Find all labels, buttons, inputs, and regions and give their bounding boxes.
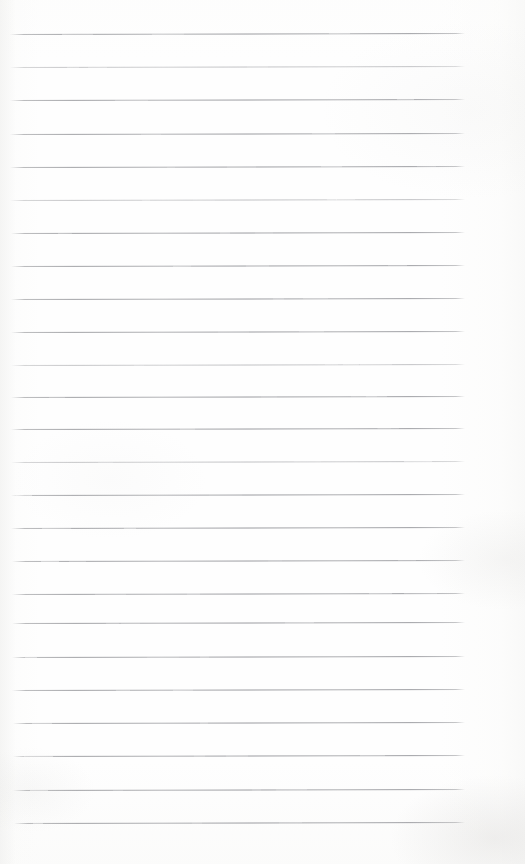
scan-dropout <box>141 134 161 135</box>
ruled-line <box>12 593 465 595</box>
scan-dropout <box>294 461 321 462</box>
ruled-line <box>10 99 465 101</box>
scan-dropout <box>220 233 230 234</box>
scan-dropout <box>209 494 242 495</box>
scan-dropout <box>67 67 79 68</box>
scan-dropout <box>366 396 387 397</box>
ruled-line <box>11 396 465 398</box>
scan-dropout <box>200 657 209 658</box>
scan-dropout <box>299 331 324 332</box>
scan-dropout <box>106 623 119 624</box>
scan-dropout <box>200 723 208 724</box>
scan-dropout <box>30 790 48 791</box>
ruled-line <box>10 66 465 68</box>
ruled-line <box>12 560 465 562</box>
scan-dropout <box>327 199 337 200</box>
scan-dropout <box>329 33 350 34</box>
scan-dropout <box>336 199 355 200</box>
scan-dropout <box>303 298 328 299</box>
scanned-page <box>0 0 525 864</box>
scan-dropout <box>58 233 72 234</box>
scan-dropout <box>152 34 184 35</box>
ruled-line <box>11 428 465 430</box>
ruled-lines-layer <box>0 0 525 864</box>
scan-dropout <box>187 594 200 595</box>
scan-dropout <box>325 364 338 365</box>
ruled-line <box>11 527 465 529</box>
scan-dropout <box>360 755 385 756</box>
scan-dropout <box>343 364 359 365</box>
ruled-line <box>11 331 465 333</box>
scan-dropout <box>285 622 314 623</box>
scan-dropout <box>115 100 148 101</box>
scan-dropout <box>321 166 342 167</box>
scan-dropout <box>247 66 268 67</box>
scan-dropout <box>32 723 52 724</box>
scan-dropout <box>49 397 65 398</box>
scan-dropout <box>226 755 248 756</box>
ruled-line <box>11 265 465 267</box>
scan-dropout <box>279 822 302 823</box>
scan-dropout <box>268 560 282 561</box>
ruled-line <box>11 364 465 366</box>
scan-dropout <box>192 823 202 824</box>
scan-dropout <box>16 495 32 496</box>
ruled-line <box>10 166 465 168</box>
scan-dropout <box>147 657 179 658</box>
scan-dropout <box>142 200 150 201</box>
scan-dropout <box>369 593 392 594</box>
ruled-line <box>13 755 465 757</box>
scan-dropout <box>388 265 407 266</box>
scan-dropout <box>42 528 71 529</box>
scan-dropout <box>377 428 391 429</box>
scan-dropout <box>404 593 437 594</box>
scan-dropout <box>33 823 43 824</box>
scan-dropout <box>25 657 37 658</box>
scan-dropout <box>62 34 93 35</box>
scan-dropout <box>360 364 392 365</box>
scan-dropout <box>417 166 436 167</box>
scan-dropout <box>134 365 144 366</box>
scan-dropout <box>252 789 261 790</box>
scan-dropout <box>273 298 284 299</box>
ruled-line <box>12 622 465 624</box>
ruled-line <box>12 656 465 658</box>
scan-dropout <box>173 690 193 691</box>
scan-dropout <box>194 756 205 757</box>
scan-dropout <box>124 528 136 529</box>
scan-dropout <box>246 265 269 266</box>
ruled-line <box>13 722 465 724</box>
scan-dropout <box>98 462 113 463</box>
ruled-line <box>11 298 465 300</box>
ruled-line <box>10 199 465 201</box>
scan-dropout <box>312 133 335 134</box>
ruled-line <box>10 33 465 35</box>
scan-dropout <box>113 790 123 791</box>
ruled-line <box>13 789 465 791</box>
scan-dropout <box>88 67 107 68</box>
scan-dropout <box>69 561 86 562</box>
ruled-line <box>11 461 465 463</box>
scan-dropout <box>180 429 195 430</box>
scan-dropout <box>167 167 175 168</box>
scan-dropout <box>193 200 215 201</box>
scan-dropout <box>227 166 256 167</box>
ruled-line <box>11 494 465 496</box>
ruled-line <box>14 822 465 824</box>
ruled-line <box>10 133 465 135</box>
scan-dropout <box>173 266 191 267</box>
scan-dropout <box>116 690 130 691</box>
ruled-line <box>12 689 465 691</box>
ruled-line <box>11 232 465 234</box>
scan-dropout <box>41 561 59 562</box>
scan-dropout <box>218 331 249 332</box>
scan-dropout <box>24 756 53 757</box>
scan-dropout <box>404 461 432 462</box>
scan-dropout <box>95 594 126 595</box>
scan-dropout <box>398 560 416 561</box>
scan-dropout <box>261 396 277 397</box>
scan-dropout <box>255 232 273 233</box>
scan-dropout <box>121 623 140 624</box>
scan-dropout <box>276 789 307 790</box>
scan-dropout <box>397 99 414 100</box>
